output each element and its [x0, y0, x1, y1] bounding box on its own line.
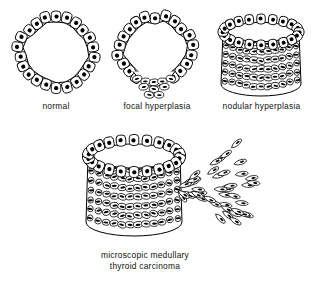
panel-nodular-hyperplasia	[212, 6, 310, 98]
spindle-cell	[95, 189, 102, 196]
invasive-cell	[235, 200, 248, 206]
follicular-cell	[257, 14, 266, 24]
spindle-cell	[174, 177, 181, 184]
cell-nucleus	[258, 17, 262, 21]
spindle-cell	[278, 54, 287, 61]
spindle-cell	[294, 69, 300, 75]
spindle-cell	[159, 83, 169, 90]
spindle-cell	[286, 78, 294, 85]
follicular-cell	[116, 135, 127, 147]
follicular-cell	[142, 135, 153, 147]
panel-caption-focal-hyperplasia: focal hyperplasia	[101, 101, 213, 112]
follicular-cell	[268, 39, 278, 50]
spindle-cell	[175, 215, 181, 221]
panel-caption-nodular-hyperplasia: nodular hyperplasia	[206, 101, 317, 112]
follicular-cell	[153, 163, 165, 176]
spindle-cell	[138, 83, 149, 91]
follicular-cell	[11, 41, 23, 52]
figure-root: normalfocal hyperplasianodular hyperplas…	[0, 0, 317, 283]
follicular-cell	[87, 41, 99, 52]
spindle-cell	[154, 91, 164, 98]
spindle-cell	[175, 206, 181, 213]
spindle-cell	[110, 183, 118, 189]
panel-focal-hyperplasia	[107, 6, 207, 98]
spindle-cell	[149, 192, 158, 199]
cell-nucleus	[259, 43, 263, 47]
invasive-cell	[245, 175, 259, 182]
follicular-cell	[129, 135, 139, 146]
spindle-cell	[87, 205, 93, 212]
spindle-cell	[102, 219, 110, 226]
spindle-cell	[229, 79, 236, 85]
spindle-cell	[229, 71, 236, 77]
cell-nucleus	[131, 138, 135, 142]
invasive-cell	[233, 158, 247, 166]
follicular-cell	[257, 40, 266, 50]
spindle-cell	[88, 187, 94, 193]
cell-nucleus	[259, 85, 264, 87]
follicular-cell	[150, 13, 160, 24]
focal-proliferation	[132, 72, 176, 99]
spindle-cell	[229, 53, 236, 60]
diagram-microscopic-medullary-thyroid-carcinoma	[62, 126, 247, 248]
spindle-cell	[88, 197, 94, 204]
spindle-cell	[223, 51, 229, 58]
cell-nucleus	[105, 193, 110, 195]
cell-nucleus	[54, 86, 58, 90]
invasive-front	[177, 138, 260, 227]
follicular-cell	[51, 11, 61, 22]
spindle-cell	[166, 189, 173, 195]
invasive-cell	[219, 149, 232, 160]
spindle-cell	[157, 182, 165, 189]
follicular-cell	[244, 39, 254, 50]
follicular-cell	[103, 136, 115, 149]
follicular-cell	[268, 14, 278, 25]
cell-nucleus	[132, 170, 136, 174]
follicular-cell	[51, 83, 61, 94]
spindle-cell	[286, 70, 293, 76]
panel-caption-microscopic-medullary-thyroid-carcinoma: microscopic medullary thyroid carcinoma	[62, 250, 228, 271]
follicular-cell	[111, 50, 123, 61]
diagram-normal	[8, 6, 104, 98]
spindle-cell	[150, 220, 158, 226]
spindle-cell	[103, 191, 111, 197]
panel-microscopic-medullary-thyroid-carcinoma	[62, 126, 247, 248]
cell-nucleus	[54, 14, 58, 18]
follicular-cell	[187, 39, 199, 50]
spindle-cell	[157, 200, 165, 207]
spindle-cell	[222, 78, 228, 85]
cell-nucleus	[230, 64, 235, 66]
invasive-cell	[229, 216, 242, 227]
invasive-cell	[214, 187, 227, 192]
spindle-cell	[229, 62, 236, 68]
follicular-cell	[244, 14, 254, 25]
spindle-cell	[293, 52, 299, 58]
spindle-cell	[141, 184, 150, 191]
diagram-focal-hyperplasia	[107, 6, 207, 98]
follicular-cell	[116, 165, 127, 177]
follicular-cell	[88, 52, 100, 63]
panel-normal	[8, 6, 104, 98]
invasive-cell	[235, 171, 248, 177]
cell-nucleus	[153, 16, 157, 20]
follicular-cell	[15, 51, 27, 62]
follicular-cell	[142, 165, 153, 177]
spindle-cell	[157, 191, 165, 198]
spindle-cell	[158, 210, 166, 216]
spindle-cell	[103, 200, 111, 206]
invasive-cell	[230, 138, 243, 150]
invasive-cell	[209, 157, 223, 167]
follicular-cell	[129, 167, 139, 178]
diagram-nodular-hyperplasia	[212, 6, 310, 98]
spindle-cell	[141, 220, 150, 227]
panel-caption-normal: normal	[8, 101, 104, 112]
